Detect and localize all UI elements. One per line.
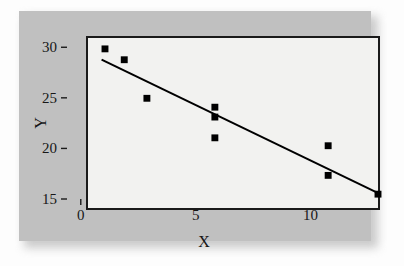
scatter-point bbox=[121, 56, 128, 63]
scatter-point bbox=[102, 45, 109, 52]
scatter-point bbox=[211, 134, 218, 141]
scatter-point bbox=[325, 142, 332, 149]
plot-canvas bbox=[88, 38, 378, 208]
figure-panel: Y X 051015202530 bbox=[19, 11, 371, 241]
regression-line bbox=[102, 60, 381, 194]
figure-page: Y X 051015202530 bbox=[0, 0, 404, 266]
plot-frame bbox=[86, 36, 380, 210]
scatter-point bbox=[211, 104, 218, 111]
scatter-point bbox=[143, 95, 150, 102]
scatter-point bbox=[211, 114, 218, 121]
scatter-point bbox=[325, 172, 332, 179]
regression-line-layer bbox=[102, 60, 381, 194]
scatter-point bbox=[375, 191, 382, 198]
